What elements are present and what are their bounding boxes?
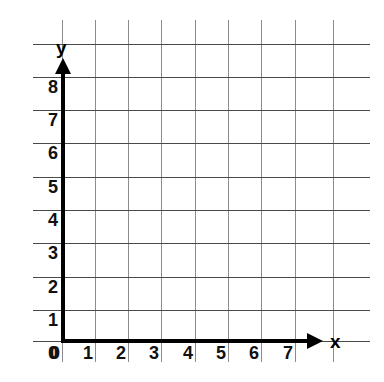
coordinate-grid-figure: y x 0 1 2 3 4 5 6 7 8 0 1 2 3 4 5 6 7 bbox=[0, 0, 384, 382]
y-tick-label-5: 5 bbox=[36, 178, 58, 196]
grid-line-horizontal bbox=[33, 177, 370, 178]
grid-line-horizontal bbox=[33, 277, 370, 278]
x-tick-label-0: 0 bbox=[38, 344, 60, 362]
y-tick-label-4: 4 bbox=[36, 211, 58, 229]
x-tick-label-6: 6 bbox=[237, 344, 259, 362]
y-tick-label-2: 2 bbox=[36, 278, 58, 296]
y-axis-label: y bbox=[56, 38, 67, 57]
x-tick-label-7: 7 bbox=[271, 344, 293, 362]
grid-line-horizontal bbox=[33, 210, 370, 211]
y-tick-label-3: 3 bbox=[36, 244, 58, 262]
y-tick-label-1: 1 bbox=[36, 311, 58, 329]
x-tick-label-4: 4 bbox=[171, 344, 193, 362]
x-axis-arrow-icon bbox=[307, 333, 323, 349]
grid-line-horizontal bbox=[33, 44, 370, 45]
grid-line-horizontal bbox=[33, 143, 370, 144]
grid-line-horizontal bbox=[33, 243, 370, 244]
y-axis-arrow-icon bbox=[55, 58, 71, 74]
y-tick-label-8: 8 bbox=[36, 78, 58, 96]
grid-line-horizontal bbox=[33, 77, 370, 78]
x-tick-label-3: 3 bbox=[137, 344, 159, 362]
grid-line-horizontal bbox=[33, 110, 370, 111]
grid-line-horizontal bbox=[33, 310, 370, 311]
x-tick-label-5: 5 bbox=[204, 344, 226, 362]
x-tick-label-1: 1 bbox=[71, 344, 93, 362]
x-axis-label: x bbox=[330, 332, 341, 351]
y-tick-label-6: 6 bbox=[36, 144, 58, 162]
x-tick-label-2: 2 bbox=[104, 344, 126, 362]
y-axis-line bbox=[61, 62, 65, 343]
y-tick-label-7: 7 bbox=[36, 111, 58, 129]
